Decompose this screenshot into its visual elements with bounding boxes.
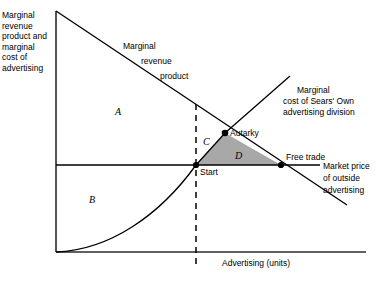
marginal-revenue-product-label-line-3: product [160,71,188,82]
free-trade-point-label: Free trade [286,152,325,163]
start-point-marker [193,162,199,168]
marginal-cost-label-line-1: Marginal [297,85,330,96]
region-c-label: C [203,136,210,147]
marginal-revenue-product-label-line-2: revenue [141,56,172,67]
market-price-label-line-1: Market price [323,161,370,172]
marginal-revenue-product-label-line-1: Marginal [123,41,156,52]
diagram-canvas [0,0,380,283]
marginal-cost-label-line-3: advertising division [283,107,355,118]
market-price-label-line-2: of outside [323,173,360,184]
region-a-label: A [115,106,121,117]
market-price-label-line-3: advertising [323,185,364,196]
autarky-point-marker [222,130,229,137]
y-axis-title: Marginal revenue product and marginal co… [2,10,56,74]
advertising-marginal-analysis-diagram: Marginal revenue product and marginal co… [0,0,380,283]
free-trade-point-marker [278,162,284,168]
region-b-label: B [89,194,95,205]
autarky-point-label: Autarky [230,128,259,139]
marginal-cost-label-line-2: cost of Sears' Own [283,96,354,107]
x-axis-title: Advertising (units) [222,258,290,269]
region-d-label: D [235,150,242,161]
start-point-label: Start [200,167,218,178]
